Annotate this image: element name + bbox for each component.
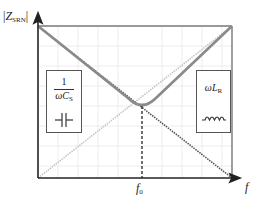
y-axis-arrow-icon <box>34 13 42 23</box>
x-axis-label: f <box>245 180 248 195</box>
abs-bar-right: | <box>26 9 28 23</box>
resonance-frequency-label: f0 <box>136 181 143 196</box>
inductive-reactance-box: ωLR <box>196 70 231 133</box>
f0-subscript: 0 <box>139 188 143 196</box>
impedance-diagram <box>0 0 272 207</box>
inductor-icon <box>196 70 231 133</box>
y-axis-label: |ZSRN| <box>3 9 28 24</box>
x-axis-arrow-icon <box>230 174 240 182</box>
y-axis-subscript: SRN <box>12 16 26 24</box>
capacitor-icon <box>46 70 82 133</box>
capacitive-reactance-box: 1 ωCS <box>46 70 82 133</box>
